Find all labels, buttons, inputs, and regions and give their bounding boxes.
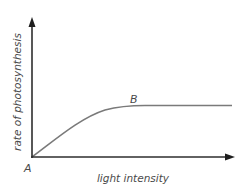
y-axis-label: rate of photosynthesis xyxy=(11,33,23,151)
y-axis-arrow-icon xyxy=(29,17,36,27)
point-a-label: A xyxy=(23,162,32,175)
rate-curve xyxy=(32,106,232,158)
x-axis-arrow-icon xyxy=(225,154,235,161)
x-axis-label: light intensity xyxy=(97,172,170,184)
photosynthesis-chart: B A light intensity rate of photosynthes… xyxy=(0,0,246,194)
point-b-label: B xyxy=(130,93,138,106)
